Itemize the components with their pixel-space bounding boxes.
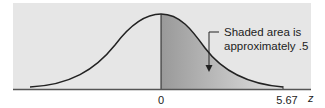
tick-label-end: 5.67 [276, 94, 297, 106]
annotation-line-2: approximately .5 [224, 40, 308, 52]
normal-curve-diagram: Shaded area is approximately .5 0 5.67 z [0, 0, 325, 108]
axis-variable-label: z [307, 92, 314, 104]
annotation-line-1: Shaded area is [224, 26, 302, 38]
tick-label-zero: 0 [158, 94, 164, 106]
